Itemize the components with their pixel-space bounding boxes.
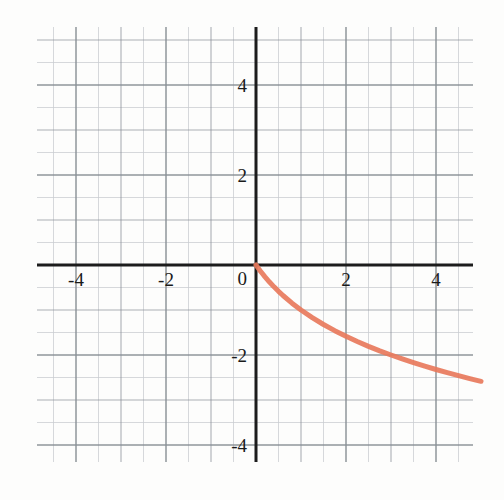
y-tick-label-neg4: -4	[231, 435, 247, 456]
coordinate-plane-chart: -4-202442-2-4	[0, 0, 504, 500]
axes	[37, 27, 473, 462]
y-tick-label-neg2: -2	[231, 345, 247, 366]
x-tick-label-neg4: -4	[68, 269, 84, 290]
y-tick-label-4: 4	[238, 75, 248, 96]
x-tick-label-0: 0	[238, 268, 248, 289]
x-tick-label-2: 2	[341, 269, 351, 290]
graph-page: -4-202442-2-4	[0, 0, 504, 500]
x-tick-label-neg2: -2	[158, 269, 174, 290]
y-tick-label-2: 2	[238, 165, 248, 186]
x-tick-label-4: 4	[431, 269, 441, 290]
